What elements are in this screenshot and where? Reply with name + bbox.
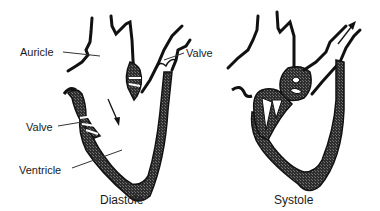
blood-flow-down-arrow <box>108 99 120 126</box>
systole-upper-valve <box>280 67 311 101</box>
valve-upper-label: Valve <box>186 47 213 59</box>
valve-lower-label: Valve <box>26 121 53 133</box>
systole-auricle-right <box>277 12 294 66</box>
systole-caption: Systole <box>274 194 313 207</box>
systole-auricle-left <box>228 16 258 68</box>
diastole-caption: Diastole <box>100 194 143 207</box>
auricle-leader-line <box>63 52 100 56</box>
upper-valve <box>126 62 141 100</box>
heart-diagram <box>0 0 380 211</box>
ventricle-label: Ventricle <box>19 164 61 176</box>
auricle-wall-left <box>68 18 92 71</box>
systole-heart <box>228 12 360 191</box>
diastole-heart <box>58 16 190 201</box>
auricle-label: Auricle <box>20 46 54 58</box>
